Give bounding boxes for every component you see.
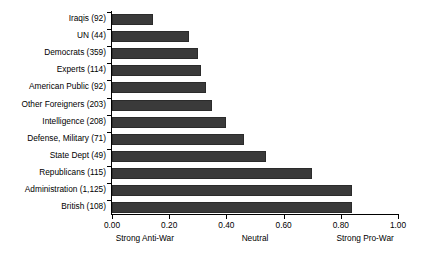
bar-row: Iraqis (92) — [0, 12, 421, 29]
bar — [112, 185, 352, 196]
category-label: Other Foreigners (203) — [0, 99, 106, 110]
x-axis-tick-label: 0.60 — [264, 220, 304, 231]
x-axis-tick — [226, 215, 227, 219]
category-label: Republicans (115) — [0, 167, 106, 178]
y-axis-tick — [107, 46, 111, 47]
bar-row: State Dept (49) — [0, 149, 421, 166]
y-axis-tick — [107, 132, 111, 133]
category-label: Intelligence (208) — [0, 116, 106, 127]
scale-anchor-label: Neutral — [195, 233, 315, 244]
bar-row: American Public (92) — [0, 80, 421, 97]
y-axis-tick — [107, 166, 111, 167]
y-axis-tick — [107, 63, 111, 64]
category-label: UN (44) — [0, 30, 106, 41]
plot-area: Iraqis (92)UN (44)Democrats (359)Experts… — [0, 0, 421, 262]
x-axis-tick — [169, 215, 170, 219]
bar-row: Defense, Military (71) — [0, 132, 421, 149]
category-label: Democrats (359) — [0, 47, 106, 58]
bar-row: Experts (114) — [0, 63, 421, 80]
x-axis-tick — [341, 215, 342, 219]
bar-row: British (108) — [0, 200, 421, 217]
bar — [112, 48, 198, 59]
y-axis-tick — [107, 200, 111, 201]
bar — [112, 65, 201, 76]
bar — [112, 100, 212, 111]
bar-row: Republicans (115) — [0, 166, 421, 183]
y-axis-tick — [107, 80, 111, 81]
bar — [112, 168, 312, 179]
x-axis-tick-label: 0.20 — [149, 220, 189, 231]
bar-row: Democrats (359) — [0, 46, 421, 63]
x-axis-tick — [398, 215, 399, 219]
category-label: State Dept (49) — [0, 150, 106, 161]
y-axis-tick — [107, 149, 111, 150]
x-axis-tick-label: 1.00 — [378, 220, 418, 231]
x-axis-tick — [284, 215, 285, 219]
scale-anchor-label: Strong Pro-War — [305, 233, 421, 244]
category-label: Experts (114) — [0, 64, 106, 75]
y-axis-tick — [107, 29, 111, 30]
bar-row: Other Foreigners (203) — [0, 98, 421, 115]
y-axis-tick — [107, 183, 111, 184]
bar-row: Administration (1,125) — [0, 183, 421, 200]
bar-chart: Iraqis (92)UN (44)Democrats (359)Experts… — [0, 0, 421, 262]
bar — [112, 31, 189, 42]
category-label: Administration (1,125) — [0, 184, 106, 195]
bar — [112, 151, 266, 162]
category-label: British (108) — [0, 201, 106, 212]
bar — [112, 117, 226, 128]
x-axis-tick-label: 0.40 — [206, 220, 246, 231]
category-label: Iraqis (92) — [0, 13, 106, 24]
y-axis-tick — [107, 98, 111, 99]
bar-row: UN (44) — [0, 29, 421, 46]
category-label: American Public (92) — [0, 81, 106, 92]
bar — [112, 14, 153, 25]
scale-anchor-label: Strong Anti-War — [85, 233, 205, 244]
x-axis-tick-label: 0.80 — [321, 220, 361, 231]
x-axis-tick-label: 0.00 — [92, 220, 132, 231]
bar — [112, 134, 244, 145]
bar — [112, 202, 352, 213]
x-axis-tick — [112, 215, 113, 219]
y-axis-tick — [107, 115, 111, 116]
y-axis-tick — [107, 12, 111, 13]
bar-row: Intelligence (208) — [0, 115, 421, 132]
bar — [112, 82, 206, 93]
category-label: Defense, Military (71) — [0, 133, 106, 144]
